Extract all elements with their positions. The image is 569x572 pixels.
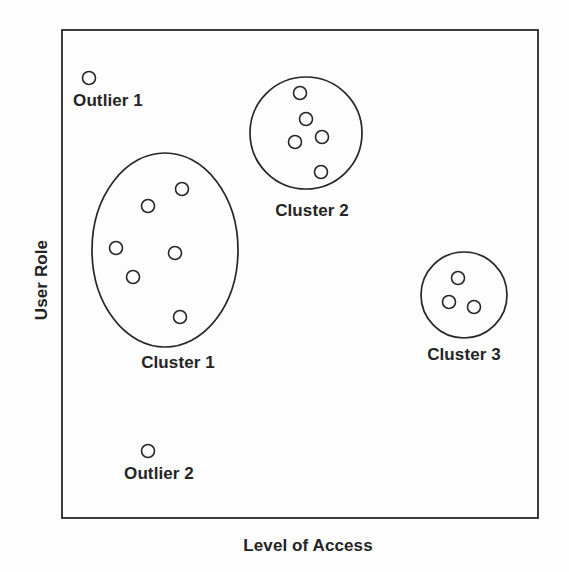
data-point-marker	[300, 113, 313, 126]
data-point-marker	[169, 247, 182, 260]
data-point-marker	[316, 131, 329, 144]
data-point-marker	[452, 272, 465, 285]
cluster-scatter-figure: User Role Level of Access Cluster 1Clust…	[0, 0, 569, 572]
annotation-label-outlier-2: Outlier 2	[124, 464, 194, 484]
data-points	[83, 72, 481, 458]
data-point-marker	[174, 311, 187, 324]
data-point-marker	[127, 271, 140, 284]
data-point-marker	[142, 200, 155, 213]
data-point-marker	[110, 242, 123, 255]
data-point-marker	[468, 301, 481, 314]
data-point-marker	[315, 166, 328, 179]
x-axis-label: Level of Access	[243, 536, 372, 556]
annotation-label-cluster-3: Cluster 3	[427, 345, 501, 365]
cluster-boundary-3	[421, 252, 507, 338]
cluster-boundary-1	[92, 153, 238, 347]
figure-canvas	[0, 0, 569, 572]
data-point-marker	[289, 136, 302, 149]
data-point-marker	[294, 87, 307, 100]
outlier-point-marker	[83, 72, 96, 85]
annotation-label-outlier-1: Outlier 1	[73, 91, 143, 111]
annotation-label-cluster-1: Cluster 1	[141, 353, 215, 373]
outlier-point-marker	[142, 445, 155, 458]
data-point-marker	[443, 296, 456, 309]
data-point-marker	[176, 183, 189, 196]
annotation-label-cluster-2: Cluster 2	[275, 201, 349, 221]
y-axis-label: User Role	[32, 240, 52, 320]
